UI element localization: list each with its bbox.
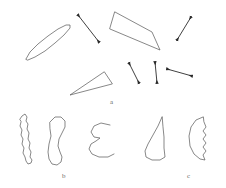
figure-canvas [0, 0, 226, 188]
panel-label-a: a [110, 99, 113, 106]
panel-label-c: c [187, 173, 190, 180]
figure-root: a b c [0, 0, 226, 188]
figure-background [0, 0, 226, 188]
panel-label-b: b [62, 173, 66, 180]
